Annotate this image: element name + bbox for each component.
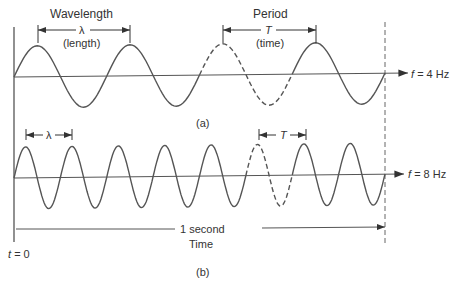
axis-a [14,73,408,77]
period-symbol-a: T [265,24,272,36]
wavelength-symbol-b: λ [46,129,52,141]
wave-8hz [14,143,385,208]
panel-label-b: (b) [196,266,209,278]
period-symbol-b: T [280,129,287,141]
wave-4hz [14,43,385,108]
wavelength-title: Wavelength [50,8,113,20]
panel-label-a: (a) [196,117,209,129]
axis-b [14,174,404,178]
duration-label: 1 second [180,223,225,235]
frequency-label-a: f = 4 Hz [411,68,449,80]
period-title: Period [253,8,288,20]
t-zero-label: t = 0 [8,248,30,260]
period-note: (time) [256,37,284,49]
time-axis-title: Time [189,238,213,250]
wavelength-note: (length) [63,37,100,49]
wavelength-symbol-a: λ [79,24,85,36]
time-arrow-right [262,227,385,228]
frequency-label-b: f = 8 Hz [408,168,446,180]
